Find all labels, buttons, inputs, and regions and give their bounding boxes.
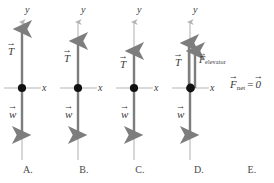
x-axis-label: x: [42, 82, 46, 93]
weight-vector-label: →w: [65, 108, 72, 120]
free-body-diagram-b: y x →T →w B.: [56, 0, 112, 183]
y-axis-label: y: [137, 4, 141, 15]
origin-dot: [186, 84, 195, 93]
fbd-d-graphic: [168, 0, 230, 183]
tension-vector-label: →T: [175, 56, 181, 68]
tension-vector-label: →T: [8, 45, 14, 57]
x-axis-label: x: [210, 82, 214, 93]
elevator-force-vector-label: →Felevator: [199, 54, 226, 65]
elevator-force-subscript: elevator: [205, 58, 226, 65]
tension-vector-label: →T: [120, 58, 126, 70]
figure-canvas: y x →T →w A. y x: [0, 0, 274, 183]
y-axis-label: y: [193, 4, 197, 15]
fbd-c-graphic: [112, 0, 168, 183]
weight-vector-label: →w: [121, 108, 128, 120]
panel-label-b: B.: [56, 164, 112, 175]
fbd-b-graphic: [56, 0, 112, 183]
panel-label-d: D.: [168, 164, 230, 175]
panel-label-c: C.: [112, 164, 168, 175]
free-body-diagram-c: y x →T →w C.: [112, 0, 168, 183]
tension-vector-label: →T: [64, 52, 70, 64]
y-axis-label: y: [81, 4, 85, 15]
net-force-equation: →Fnet=→0: [230, 78, 274, 91]
free-body-diagram-d: y x →T →Felevator →w D.: [168, 0, 230, 183]
x-axis-label: x: [98, 82, 102, 93]
free-body-diagram-e: →Fnet=→0 E.: [230, 0, 274, 183]
y-axis-label: y: [25, 4, 29, 15]
origin-dot: [74, 84, 82, 92]
weight-vector-label: →w: [177, 108, 184, 120]
panel-label-a: A.: [0, 164, 56, 175]
free-body-diagram-a: y x →T →w A.: [0, 0, 56, 183]
x-axis-label: x: [154, 82, 158, 93]
weight-vector-label: →w: [9, 108, 16, 120]
origin-dot: [18, 84, 26, 92]
fbd-a-graphic: [0, 0, 56, 183]
panel-label-e: E.: [230, 164, 274, 175]
origin-dot: [130, 84, 138, 92]
